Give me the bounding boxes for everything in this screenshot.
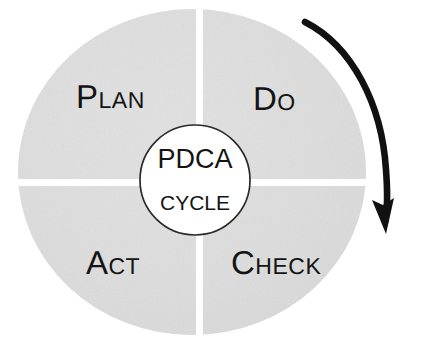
diagram-canvas — [0, 0, 421, 348]
hub-primary-label: PDCA — [135, 146, 255, 173]
quadrant-label-do: Do — [253, 82, 296, 115]
hub-group — [140, 125, 250, 235]
quadrant-label-act: Act — [86, 246, 140, 279]
arrow-head — [372, 198, 394, 234]
hub-circle — [140, 125, 250, 235]
hub-secondary-label: CYCLE — [135, 192, 255, 213]
quadrant-label-plan: Plan — [76, 80, 145, 113]
quadrant-label-check: Check — [231, 246, 321, 279]
pdca-cycle-diagram: Plan Do Act Check PDCA CYCLE — [0, 0, 421, 348]
